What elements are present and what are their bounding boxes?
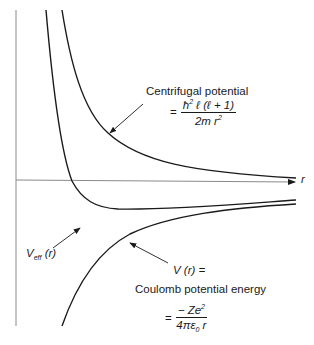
equals-sign: = [165, 312, 172, 324]
r-exponent: 2 [218, 114, 222, 121]
centrifugal-label: Centrifugal potential [146, 85, 248, 97]
coulomb-vr-label: V (r) = [173, 264, 205, 276]
effective-arrow [53, 228, 80, 248]
coulomb-numerator: − Ze2 [176, 303, 207, 318]
centrifugal-formula: = ħ2 ℓ (ℓ + 1) 2m r2 [170, 98, 236, 127]
centrifugal-denominator: 2m r2 [195, 113, 222, 127]
equals-sign: = [170, 106, 177, 118]
coulomb-formula: = − Ze2 4πε0 r [165, 303, 207, 333]
numerator-main: − Ze [178, 304, 201, 316]
denominator-main: 4πε [176, 319, 195, 331]
r-term: r [199, 319, 206, 331]
effective-potential-label: Veff (r) [26, 247, 56, 261]
coulomb-denominator: 4πε0 r [176, 318, 206, 333]
angular-term: ℓ (ℓ + 1) [193, 99, 234, 111]
denominator-main: 2m r [195, 115, 218, 127]
r-argument: (r) [41, 247, 56, 259]
coulomb-label: Coulomb potential energy [135, 283, 266, 295]
x-axis-label: r [301, 173, 305, 185]
v-symbol: V [26, 247, 34, 259]
coulomb-arrow [130, 243, 168, 263]
e-exponent: 2 [201, 303, 205, 310]
centrifugal-arrow [110, 104, 143, 133]
x-axis [16, 180, 295, 182]
centrifugal-numerator: ħ2 ℓ (ℓ + 1) [181, 98, 236, 113]
